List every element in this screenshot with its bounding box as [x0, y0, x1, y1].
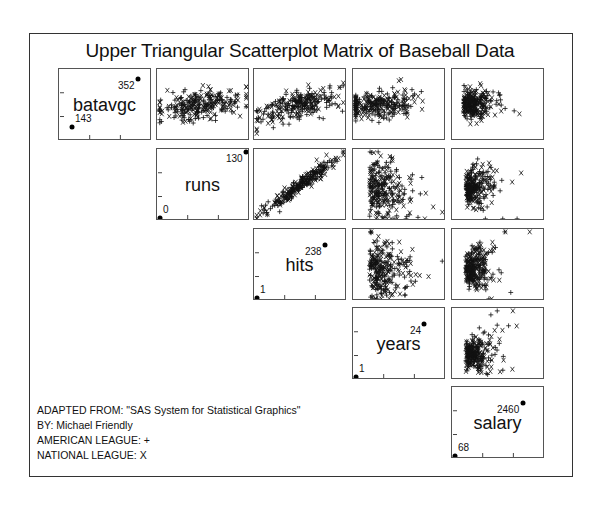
notes-block: ADAPTED FROM: "SAS System for Statistica…: [37, 403, 301, 463]
diagonal-panel-runs: runs0130: [156, 148, 249, 220]
scatter-panel-runs-vs-years: [352, 148, 445, 220]
diagonal-panel-batavgc: batavgc143352: [58, 68, 151, 140]
diagonal-panel-salary: salary682460: [451, 386, 544, 458]
scatter-panel-hits-vs-years: [352, 228, 445, 300]
scatter-panel-batavgc-vs-runs: [156, 68, 249, 140]
scatter-panel-hits-vs-salary: [451, 228, 544, 300]
variable-label: batavgc: [59, 95, 150, 116]
min-value-label: 68: [458, 442, 469, 453]
max-value-label: 2460: [497, 404, 519, 415]
scatter-panel-runs-vs-hits: [253, 148, 346, 220]
diagonal-panel-hits: hits1238: [253, 228, 346, 300]
max-value-label: 130: [226, 153, 243, 164]
note-author: BY: Michael Friendly: [37, 418, 301, 433]
chart-title: Upper Triangular Scatterplot Matrix of B…: [0, 40, 600, 62]
max-value-label: 238: [305, 246, 322, 257]
max-value-label: 352: [118, 80, 135, 91]
min-value-label: 1: [260, 284, 266, 295]
scatter-panel-batavgc-vs-years: [352, 68, 445, 140]
variable-label: runs: [157, 175, 248, 196]
scatter-panel-batavgc-vs-hits: [253, 68, 346, 140]
legend-national-league: NATIONAL LEAGUE: X: [37, 448, 301, 463]
scatter-panel-runs-vs-salary: [451, 148, 544, 220]
scatter-panel-years-vs-salary: [451, 307, 544, 379]
min-value-label: 1: [359, 363, 365, 374]
min-value-label: 143: [75, 113, 92, 124]
diagonal-panel-years: years124: [352, 307, 445, 379]
min-value-label: 0: [163, 204, 169, 215]
variable-label: years: [353, 334, 444, 355]
max-value-label: 24: [410, 325, 421, 336]
scatter-panel-batavgc-vs-salary: [451, 68, 544, 140]
note-source: ADAPTED FROM: "SAS System for Statistica…: [37, 403, 301, 418]
variable-label: salary: [452, 413, 543, 434]
legend-american-league: AMERICAN LEAGUE: +: [37, 433, 301, 448]
variable-label: hits: [254, 255, 345, 276]
